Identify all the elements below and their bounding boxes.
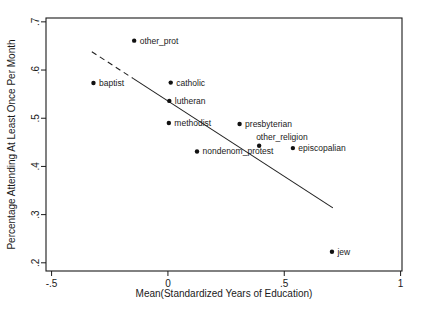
x-tick-label: -.5	[46, 278, 58, 289]
point-label-presbyterian: presbyterian	[245, 119, 292, 129]
scatter-plot-figure: -.50.51.2.3.4.5.6.7Mean(Standardized Yea…	[0, 0, 421, 311]
point-label-episcopalian: episcopalian	[298, 143, 346, 153]
scatter-plot: -.50.51.2.3.4.5.6.7Mean(Standardized Yea…	[0, 0, 421, 311]
y-axis-title: Percentage Attending At Least Once Per M…	[6, 39, 17, 249]
data-point-presbyterian	[237, 122, 241, 126]
data-point-methodist	[167, 121, 171, 125]
x-tick-label: 1	[398, 278, 404, 289]
fit-line-dashed-segment	[92, 52, 133, 79]
y-tick-label: .7	[31, 17, 42, 26]
data-point-episcopalian	[291, 146, 295, 150]
point-label-lutheran: lutheran	[175, 96, 206, 106]
point-label-methodist: methodist	[174, 118, 211, 128]
data-point-lutheran	[167, 99, 171, 103]
point-label-jew: jew	[336, 247, 351, 257]
data-point-other_prot	[132, 38, 136, 42]
point-label-nondenom_protest: nondenom_protest	[203, 146, 275, 156]
data-point-nondenom_protest	[195, 149, 199, 153]
point-label-other_prot: other_prot	[140, 36, 179, 46]
y-tick-label: .2	[31, 258, 42, 267]
point-label-other_religion: other_religion	[256, 132, 308, 142]
data-point-baptist	[91, 81, 95, 85]
y-tick-label: .3	[31, 210, 42, 219]
y-tick-label: .5	[31, 114, 42, 123]
point-label-catholic: catholic	[176, 78, 206, 88]
y-tick-label: .6	[31, 65, 42, 74]
data-point-catholic	[169, 80, 173, 84]
plot-frame	[46, 18, 402, 271]
x-axis-title: Mean(Standardized Years of Education)	[136, 288, 313, 299]
data-point-jew	[330, 250, 334, 254]
point-label-baptist: baptist	[99, 78, 125, 88]
y-tick-label: .4	[31, 162, 42, 171]
